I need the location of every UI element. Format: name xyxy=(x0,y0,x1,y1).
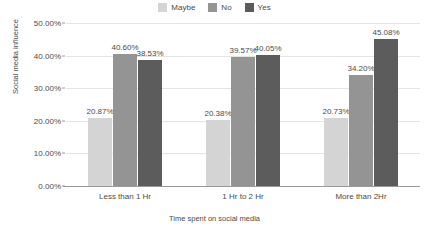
bar[interactable]: 20.87% xyxy=(88,118,112,186)
y-axis-tick-mark xyxy=(62,23,65,24)
y-axis-tick-label: 0.00% xyxy=(38,182,61,191)
bar-value-label: 39.57% xyxy=(229,46,256,55)
x-axis-category-label: More than 2Hr xyxy=(335,192,386,201)
bar-value-label: 20.73% xyxy=(322,107,349,116)
legend-label-maybe: Maybe xyxy=(171,3,195,12)
bar[interactable]: 40.05% xyxy=(256,55,280,186)
bar-chart: Maybe No Yes Social media influence 50.0… xyxy=(0,0,429,231)
plot-area: 50.00%40.00%30.00%20.00%10.00%0.00%20.87… xyxy=(66,23,420,186)
x-axis-line xyxy=(63,186,420,187)
bar-value-label: 40.60% xyxy=(111,43,138,52)
bar-group: 20.87%40.60%38.53%Less than 1 Hr xyxy=(66,23,184,186)
bar-value-label: 40.05% xyxy=(254,44,281,53)
y-axis-tick-mark xyxy=(62,55,65,56)
y-axis-tick-mark xyxy=(62,120,65,121)
bar-group: 20.73%34.20%45.08%More than 2Hr xyxy=(302,23,420,186)
bar[interactable]: 40.60% xyxy=(113,54,137,186)
chart-legend: Maybe No Yes xyxy=(0,1,429,14)
legend-item-yes[interactable]: Yes xyxy=(245,3,271,12)
legend-swatch-yes xyxy=(245,3,254,12)
bar-value-label: 45.08% xyxy=(372,28,399,37)
bar-group: 20.38%39.57%40.05%1 Hr to 2 Hr xyxy=(184,23,302,186)
legend-item-maybe[interactable]: Maybe xyxy=(158,3,195,12)
bar[interactable]: 34.20% xyxy=(349,75,373,186)
x-axis-category-label: Less than 1 Hr xyxy=(99,192,151,201)
y-axis-tick-mark xyxy=(62,186,65,187)
bar[interactable]: 45.08% xyxy=(374,39,398,186)
bar[interactable]: 20.73% xyxy=(324,118,348,186)
y-axis-tick-label: 30.00% xyxy=(34,84,61,93)
legend-swatch-maybe xyxy=(158,3,167,12)
bar-value-label: 20.38% xyxy=(204,109,231,118)
x-axis-category-label: 1 Hr to 2 Hr xyxy=(222,192,263,201)
bar-value-label: 34.20% xyxy=(347,64,374,73)
bar[interactable]: 38.53% xyxy=(138,60,162,186)
y-axis-tick-label: 20.00% xyxy=(34,116,61,125)
bar[interactable]: 20.38% xyxy=(206,120,230,186)
legend-swatch-no xyxy=(208,3,217,12)
y-axis-tick-label: 10.00% xyxy=(34,149,61,158)
y-axis-tick-mark xyxy=(62,88,65,89)
bar-value-label: 20.87% xyxy=(86,107,113,116)
y-axis-title: Social media influence xyxy=(11,0,20,122)
x-axis-title: Time spent on social media xyxy=(0,214,429,223)
y-axis-tick-label: 50.00% xyxy=(34,19,61,28)
legend-label-no: No xyxy=(221,3,231,12)
legend-label-yes: Yes xyxy=(258,3,271,12)
bar-value-label: 38.53% xyxy=(136,49,163,58)
y-axis-tick-mark xyxy=(62,153,65,154)
bar[interactable]: 39.57% xyxy=(231,57,255,186)
legend-item-no[interactable]: No xyxy=(208,3,231,12)
y-axis-tick-label: 40.00% xyxy=(34,51,61,60)
